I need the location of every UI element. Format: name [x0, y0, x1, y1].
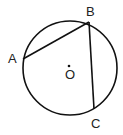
- label-a: A: [8, 51, 17, 66]
- label-b: B: [86, 4, 95, 19]
- chord-bc: [89, 22, 94, 109]
- circle-diagram: O A B C: [0, 0, 123, 135]
- label-o: O: [65, 67, 75, 82]
- label-c: C: [91, 116, 100, 131]
- chord-ab: [23, 22, 89, 59]
